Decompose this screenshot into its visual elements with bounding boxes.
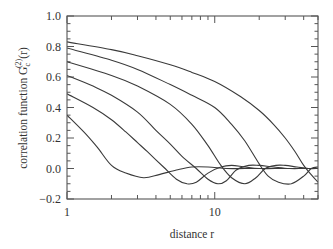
x-tick-labels: 110 — [64, 205, 221, 219]
y-tick-labels: 1.00.80.60.40.20.0−0.2 — [39, 9, 61, 206]
axis-ticks — [67, 16, 318, 199]
y-axis-title-sup: (2) — [14, 58, 23, 68]
data-curves — [67, 42, 318, 184]
correlation-chart: 1.00.80.60.40.20.0−0.2 110 distance r co… — [0, 0, 333, 249]
y-axis-title-tail: (r) — [17, 47, 30, 59]
plot-frame — [67, 16, 318, 199]
x-tick-label: 10 — [209, 205, 221, 219]
y-tick-label: 0.2 — [46, 131, 61, 145]
series-curve-4 — [67, 76, 318, 184]
series-curve-2 — [67, 48, 318, 184]
series-curve-5 — [67, 94, 318, 184]
y-tick-label: 0.6 — [46, 70, 61, 84]
x-axis-title: distance r — [170, 228, 215, 240]
y-tick-label: 0.4 — [46, 101, 61, 115]
y-tick-label: −0.2 — [39, 192, 61, 206]
series-curve-1 — [67, 42, 318, 182]
y-axis-title-sub: c — [23, 63, 32, 67]
y-axis-title-main: correlation function G — [17, 67, 29, 169]
y-tick-label: 1.0 — [46, 9, 61, 23]
x-tick-label: 1 — [64, 205, 70, 219]
y-tick-label: 0.0 — [46, 162, 61, 176]
y-axis-title: correlation function Gc(2)(r) — [14, 47, 32, 169]
y-tick-label: 0.8 — [46, 40, 61, 54]
